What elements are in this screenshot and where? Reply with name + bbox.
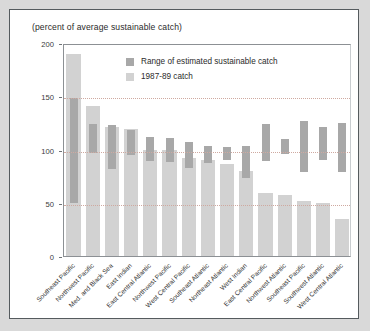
x-axis-tick-label: Northwest Atlantic: [244, 262, 286, 304]
y-axis-tick-mark: [59, 97, 62, 98]
bar-group: [278, 45, 292, 256]
x-axis-tick-label: East Indian: [105, 262, 133, 290]
legend-label: Range of estimated sustainable catch: [141, 57, 278, 66]
x-axis-tick-label: Southeast Pacific: [265, 262, 306, 303]
bar-catch: [239, 171, 253, 256]
x-axis-tick-label: Med. and Black Sea: [67, 262, 114, 309]
x-axis-tick-label: West Central Atlantic: [296, 262, 344, 310]
bar-catch: [201, 160, 215, 256]
bar-sustainable-range: [262, 124, 270, 161]
bar-sustainable-range: [319, 127, 327, 160]
bar-sustainable-range: [108, 125, 116, 169]
y-axis-tick-label: 50: [32, 200, 54, 209]
x-axis-tick-label: Northeast Atlantic: [188, 262, 229, 303]
bar-group: [316, 45, 330, 256]
gridline: [64, 98, 350, 99]
gridline: [64, 152, 350, 153]
x-axis-tick-label: West Central Pacific: [144, 262, 191, 309]
legend-item: 1987-89 catch: [126, 69, 278, 84]
y-axis-tick-mark: [59, 44, 62, 45]
legend-swatch: [126, 58, 134, 66]
bar-catch: [162, 150, 176, 257]
bar-catch: [316, 203, 330, 256]
legend-swatch: [126, 73, 134, 81]
chart-legend: Range of estimated sustainable catch1987…: [126, 54, 278, 84]
bar-sustainable-range: [223, 147, 231, 160]
x-axis-tick-label: Southeast Atlantic: [168, 262, 210, 304]
bar-sustainable-range: [166, 138, 174, 162]
x-axis-tick-label: Northwest Pacific: [54, 262, 95, 303]
bar-group: [105, 45, 119, 256]
y-axis-tick-label: 0: [32, 253, 54, 262]
bar-sustainable-range: [185, 142, 193, 168]
y-axis-tick-mark: [59, 257, 62, 258]
y-axis-tick-label: 200: [32, 40, 54, 49]
bar-catch: [335, 219, 349, 256]
bar-catch: [297, 201, 311, 256]
x-axis-tick-label: East Central Atlantic: [105, 262, 152, 309]
bar-group: [335, 45, 349, 256]
bar-sustainable-range: [89, 124, 97, 153]
chart-caption: (percent of average sustainable catch): [32, 22, 182, 32]
bar-group: [86, 45, 100, 256]
bar-sustainable-range: [146, 137, 154, 161]
x-axis-tick-label: Northwest Pacific: [131, 262, 172, 303]
y-axis-tick-mark: [59, 204, 62, 205]
bar-sustainable-range: [338, 123, 346, 172]
bar-sustainable-range: [300, 121, 308, 172]
x-axis-tick-label: Southwest Atlantic: [282, 262, 325, 305]
y-axis-tick-label: 150: [32, 93, 54, 102]
x-axis-tick-label: Southeast Pacific: [35, 262, 76, 303]
y-axis-tick-mark: [59, 151, 62, 152]
bar-group: [66, 45, 80, 256]
y-axis-tick-label: 100: [32, 147, 54, 156]
bar-catch: [258, 193, 272, 256]
bar-catch: [143, 150, 157, 257]
chart-panel: (percent of average sustainable catch) 0…: [9, 9, 359, 319]
legend-label: 1987-89 catch: [141, 72, 193, 81]
gridline: [64, 205, 350, 206]
bar-catch: [220, 164, 234, 256]
x-axis-tick-label: East Central Pacific: [222, 262, 268, 308]
x-axis-tick-label: West Indian: [219, 262, 248, 291]
legend-item: Range of estimated sustainable catch: [126, 54, 278, 69]
bar-catch: [182, 158, 196, 256]
bar-group: [297, 45, 311, 256]
bar-sustainable-range: [204, 146, 212, 163]
